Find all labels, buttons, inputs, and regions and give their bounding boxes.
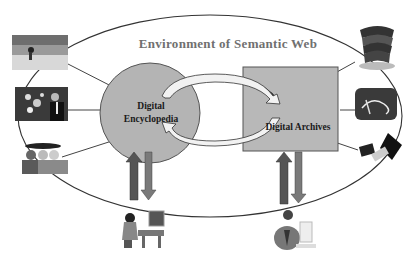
arrow-up-icon <box>276 152 292 204</box>
bubbles-businessman-photo <box>15 87 68 121</box>
arrow-up-icon <box>126 152 142 200</box>
woman-at-computer-icon <box>122 211 164 248</box>
arrow-down-icon <box>291 152 306 203</box>
beach-photo <box>12 35 68 70</box>
scroll-diploma-icon <box>355 88 397 120</box>
book-stack-icon <box>359 26 395 70</box>
connector-line <box>68 64 115 88</box>
diagram-title: Environment of Semantic Web <box>118 36 338 52</box>
man-at-computer-icon <box>274 210 316 250</box>
digital-archives-label: Digital Archives <box>250 122 346 132</box>
people-group-icon <box>22 143 68 174</box>
digital-encyclopedia-label: Digital Encyclopedia <box>118 100 184 126</box>
encyclopedia-label-line1: Digital <box>118 100 184 113</box>
encyclopedia-label-line2: Encyclopedia <box>118 113 184 126</box>
connector-line <box>62 140 115 157</box>
laptop-floppy-icon <box>359 133 402 161</box>
